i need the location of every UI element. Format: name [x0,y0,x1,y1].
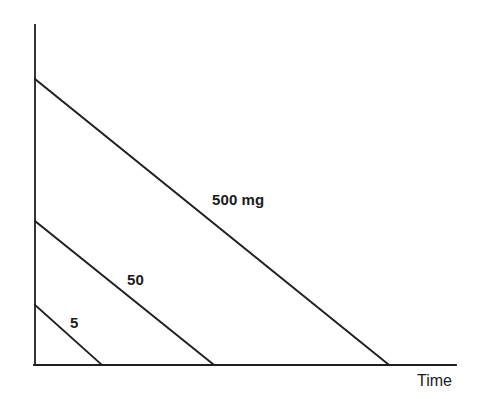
series-label-5: 5 [70,315,78,330]
series-label-50: 50 [127,272,144,287]
chart-figure: 500 mg 50 5 Time [0,0,482,399]
series-line-5 [35,305,102,365]
series-line-50 [35,221,214,365]
series-line-500mg [35,79,389,365]
series-label-500mg: 500 mg [212,192,264,207]
x-axis-label: Time [417,373,452,389]
